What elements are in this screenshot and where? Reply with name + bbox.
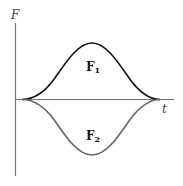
force-time-diagram: F t F1 F2 (0, 0, 183, 186)
f1-label-sub: 1 (95, 65, 101, 75)
f1-label: F1 (86, 60, 100, 75)
y-axis-label: F (10, 8, 20, 22)
f2-label: F2 (86, 129, 100, 144)
f2-label-sub: 2 (95, 134, 101, 144)
x-axis-label: t (162, 102, 167, 116)
f2-curve (22, 100, 160, 156)
